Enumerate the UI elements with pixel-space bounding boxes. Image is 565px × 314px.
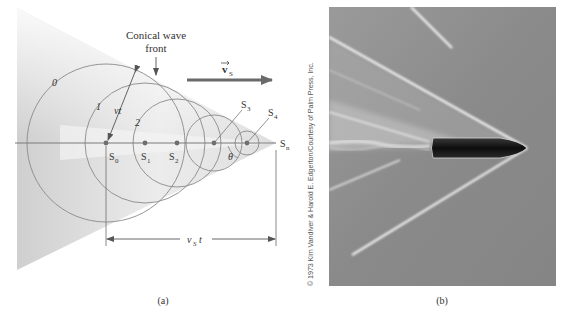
photo-credit: © 1973 Kim Vandiver & Harold E. Edgerton… bbox=[306, 62, 315, 286]
annotation-conical-wave: Conical wave bbox=[126, 29, 186, 41]
panel-a-diagram: Conical wave front v S 0 1 2 vt S 0 S 1 … bbox=[15, 8, 290, 307]
distance-label: v S t bbox=[187, 234, 202, 248]
svg-text:S: S bbox=[241, 99, 247, 110]
svg-text:4: 4 bbox=[274, 113, 278, 121]
annotation-front: front bbox=[145, 42, 166, 54]
velocity-label: v S bbox=[221, 61, 233, 78]
source-dot-s0 bbox=[104, 141, 109, 146]
caption-b: (b) bbox=[436, 295, 448, 307]
angle-label: θ bbox=[228, 151, 233, 162]
circle-label-0: 0 bbox=[52, 77, 57, 88]
svg-text:S: S bbox=[141, 151, 147, 162]
svg-text:3: 3 bbox=[247, 105, 251, 113]
source-dot-s1 bbox=[143, 141, 148, 146]
svg-text:n: n bbox=[286, 144, 290, 152]
svg-text:0: 0 bbox=[115, 157, 119, 165]
bullet bbox=[432, 138, 528, 158]
svg-text:S: S bbox=[169, 151, 175, 162]
panel-b-photo: (b) bbox=[329, 7, 556, 307]
shock-wave-figure: Conical wave front v S 0 1 2 vt S 0 S 1 … bbox=[0, 0, 565, 314]
source-label-sn: S n bbox=[280, 138, 290, 152]
svg-text:S: S bbox=[229, 70, 233, 78]
svg-text:2: 2 bbox=[175, 157, 179, 165]
source-label-s3: S 3 bbox=[241, 99, 251, 113]
source-dot-s2 bbox=[175, 141, 180, 146]
svg-text:1: 1 bbox=[147, 157, 151, 165]
caption-a: (a) bbox=[157, 295, 168, 307]
circle-label-2: 2 bbox=[135, 117, 140, 128]
svg-text:S: S bbox=[280, 138, 286, 149]
radius-label: vt bbox=[114, 105, 121, 116]
svg-text:t: t bbox=[199, 234, 202, 245]
circle-label-1: 1 bbox=[96, 101, 101, 112]
svg-text:S: S bbox=[193, 240, 197, 248]
svg-text:S: S bbox=[268, 107, 274, 118]
svg-text:v: v bbox=[187, 234, 192, 245]
source-label-s4: S 4 bbox=[268, 107, 278, 121]
svg-text:S: S bbox=[109, 151, 115, 162]
